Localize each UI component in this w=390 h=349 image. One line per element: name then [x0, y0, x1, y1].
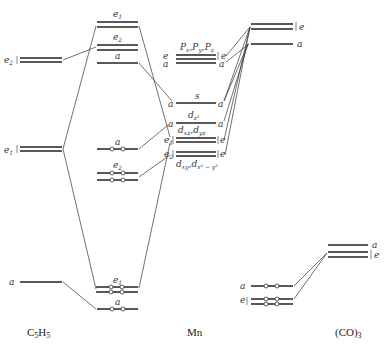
svg-text:e1: e1 [164, 135, 173, 146]
complex-a-upper: a [97, 51, 138, 63]
svg-text:a: a [168, 119, 173, 129]
svg-text:dxz,dyz: dxz,dyz [178, 125, 206, 137]
c5h5-a-label: a [9, 277, 14, 287]
c5h5-e1-label: e1 [4, 145, 13, 156]
column-label-c5h5: C5H5 [27, 326, 50, 340]
svg-text:e1: e1 [113, 275, 122, 286]
mn-s-level: s a a [168, 91, 223, 109]
svg-text:a: a [372, 240, 377, 250]
c5h5-a-level: a [9, 277, 62, 287]
mn-column: Px,Py,Pz e a e a s a a dz² a a dxz,dyz e… [163, 42, 226, 171]
complex-column: e1 e2 a a e2 [96, 9, 138, 311]
column-label-mn: Mn [187, 326, 203, 338]
c5h5-e2-level: e2 [4, 55, 62, 66]
complex-a-filled: a [97, 137, 138, 151]
mn-dxy-level: dxy,dx² − y² e2 e [164, 149, 225, 171]
complex-e1-upper: e1 [97, 9, 138, 27]
mo-diagram: e2 e1 a e1 e2 a [0, 0, 390, 349]
svg-text:e: e [299, 22, 304, 32]
svg-text:dxy,dx² − y²: dxy,dx² − y² [176, 159, 218, 171]
c5h5-column: e2 e1 a [4, 55, 62, 287]
complex-a-bottom: a [97, 297, 138, 311]
svg-text:Px,Py,Pz: Px,Py,Pz [179, 42, 215, 54]
svg-text:a: a [218, 99, 223, 109]
upper-right-levels: e a [251, 22, 304, 49]
svg-text:a: a [115, 297, 120, 307]
svg-text:dz²: dz² [188, 110, 200, 121]
svg-text:e: e [240, 295, 245, 305]
svg-text:e: e [220, 149, 225, 159]
mn-p-levels: Px,Py,Pz e a e a [163, 42, 226, 69]
column-label-co3: (CO)3 [335, 326, 362, 340]
svg-text:e1: e1 [113, 9, 122, 20]
svg-text:a: a [115, 51, 120, 61]
svg-text:a: a [218, 119, 223, 129]
svg-text:e: e [374, 250, 379, 260]
complex-e2-upper: e2 [97, 32, 138, 50]
svg-text:a: a [297, 39, 302, 49]
c5h5-e2-label: e2 [4, 55, 13, 66]
svg-text:a: a [219, 59, 224, 69]
complex-e1-filled: e1 [96, 275, 138, 294]
svg-text:a: a [115, 137, 120, 147]
svg-text:a: a [168, 99, 173, 109]
complex-e2-filled: e2 [97, 160, 138, 182]
c5h5-e1-level: e1 [4, 145, 62, 156]
svg-text:a: a [163, 59, 168, 69]
svg-text:s: s [195, 91, 200, 101]
svg-text:a: a [240, 281, 245, 291]
co3-column: a e a e [240, 240, 379, 306]
svg-text:e2: e2 [113, 32, 122, 43]
svg-text:e2: e2 [113, 160, 122, 171]
